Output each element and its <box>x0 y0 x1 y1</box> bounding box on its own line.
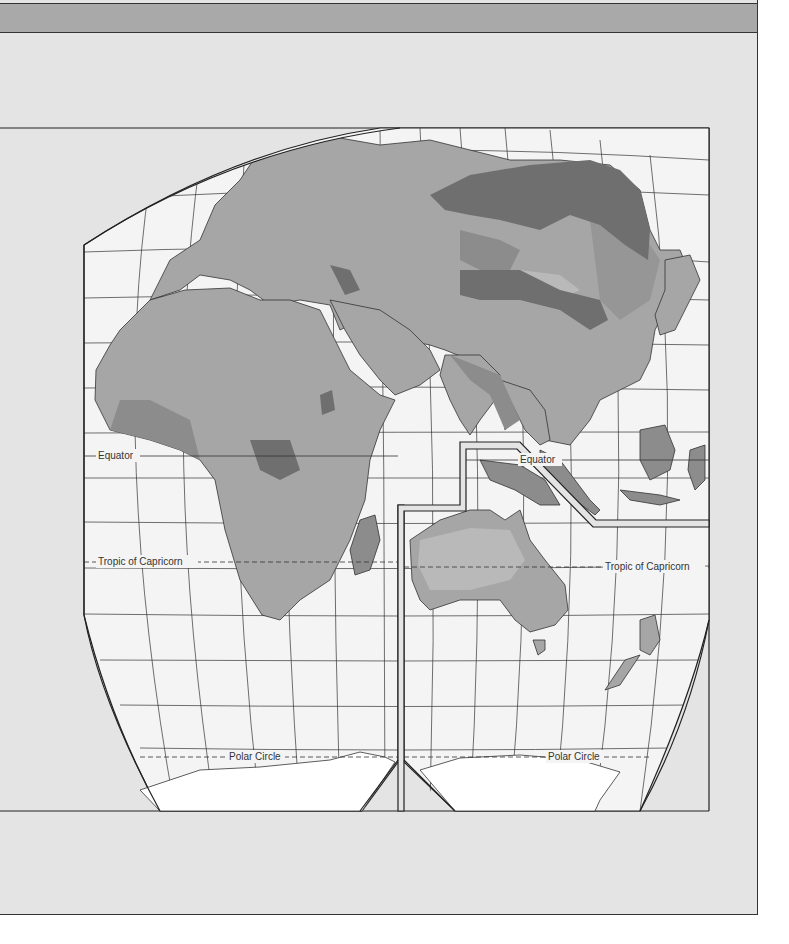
tropic-label-right: Tropic of Capricorn <box>605 561 690 572</box>
equator-label-left: Equator <box>98 450 134 461</box>
polar-circle-label-right: Polar Circle <box>548 751 600 762</box>
equator-label-right: Equator <box>520 454 556 465</box>
polar-circle-label-left: Polar Circle <box>229 751 281 762</box>
tropic-label-left: Tropic of Capricorn <box>98 556 183 567</box>
world-map: Equator Equator Tropic of Capricorn Trop… <box>0 0 789 944</box>
